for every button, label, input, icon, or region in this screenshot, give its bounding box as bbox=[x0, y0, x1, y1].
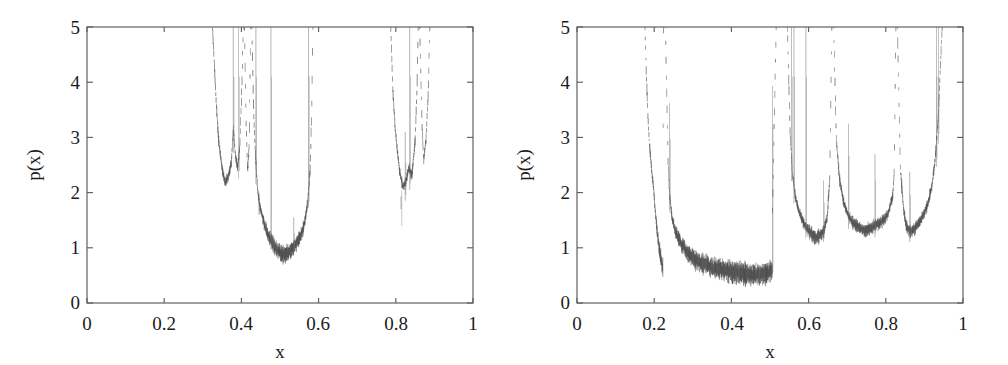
right-ytick-label-2: 2 bbox=[561, 182, 571, 203]
left-xtick-label-5: 1 bbox=[468, 313, 478, 334]
right-xtick-label-1: 0.2 bbox=[642, 313, 666, 334]
left-ytick-label-3: 3 bbox=[71, 127, 81, 148]
density-spike bbox=[410, 27, 411, 190]
left-xtick-label-0: 0 bbox=[82, 313, 92, 334]
density-band bbox=[665, 27, 776, 287]
left-ytick-label-5: 5 bbox=[71, 17, 81, 38]
left-plot-data bbox=[212, 27, 429, 265]
left-x-axis-title: x bbox=[275, 341, 285, 362]
density-spike bbox=[772, 86, 773, 274]
left-ytick-label-4: 4 bbox=[71, 72, 81, 93]
density-band bbox=[897, 27, 942, 238]
left-plot-tickmarks bbox=[87, 27, 473, 303]
figure-container: 5 4 3 2 1 0 p(x) 0 0.2 0.4 0.6 0.8 1 x bbox=[0, 0, 1008, 365]
density-spike bbox=[938, 27, 939, 143]
density-band bbox=[252, 27, 313, 265]
density-band bbox=[244, 27, 250, 171]
left-xtick-label-2: 0.4 bbox=[229, 313, 253, 334]
density-band bbox=[420, 27, 430, 164]
left-ytick-label-0: 0 bbox=[71, 292, 81, 313]
right-xtick-label-2: 0.4 bbox=[720, 313, 744, 334]
right-ytick-label-4: 4 bbox=[561, 72, 571, 93]
right-ytick-label-5: 5 bbox=[561, 17, 571, 38]
right-xtick-label-4: 0.8 bbox=[874, 313, 898, 334]
density-spike bbox=[794, 27, 795, 203]
density-band bbox=[391, 27, 418, 190]
right-xtick-label-5: 1 bbox=[958, 313, 968, 334]
density-spike bbox=[405, 132, 406, 201]
right-y-axis-title: p(x) bbox=[513, 149, 535, 181]
density-spike bbox=[936, 27, 937, 167]
density-spike bbox=[309, 27, 310, 208]
density-band bbox=[645, 27, 664, 277]
right-plot-svg: 5 4 3 2 1 0 p(x) 0 0.2 0.4 0.6 0.8 1 x bbox=[504, 0, 1008, 365]
density-band bbox=[834, 27, 896, 238]
left-plot-svg: 5 4 3 2 1 0 p(x) 0 0.2 0.4 0.6 0.8 1 x bbox=[0, 0, 504, 365]
right-plot-panel: 5 4 3 2 1 0 p(x) 0 0.2 0.4 0.6 0.8 1 x bbox=[504, 0, 1008, 365]
density-spike bbox=[848, 124, 849, 229]
left-plot-panel: 5 4 3 2 1 0 p(x) 0 0.2 0.4 0.6 0.8 1 x bbox=[0, 0, 504, 365]
right-ytick-label-1: 1 bbox=[561, 237, 571, 258]
right-ytick-label-3: 3 bbox=[561, 127, 571, 148]
left-y-axis-title: p(x) bbox=[23, 149, 45, 181]
right-ytick-label-0: 0 bbox=[561, 292, 571, 313]
left-ytick-label-2: 2 bbox=[71, 182, 81, 203]
right-plot-data bbox=[645, 27, 942, 287]
left-xtick-label-3: 0.6 bbox=[306, 313, 330, 334]
density-spike bbox=[256, 27, 257, 184]
left-xtick-label-4: 0.8 bbox=[384, 313, 408, 334]
left-ytick-label-1: 1 bbox=[71, 237, 81, 258]
left-xtick-label-1: 0.2 bbox=[152, 313, 176, 334]
right-xtick-label-3: 0.6 bbox=[797, 313, 821, 334]
density-spike bbox=[271, 27, 272, 250]
left-plot-frame bbox=[87, 27, 473, 303]
right-xtick-label-0: 0 bbox=[572, 313, 582, 334]
density-spike bbox=[401, 190, 402, 226]
density-spike bbox=[806, 27, 807, 238]
right-x-axis-title: x bbox=[765, 341, 775, 362]
